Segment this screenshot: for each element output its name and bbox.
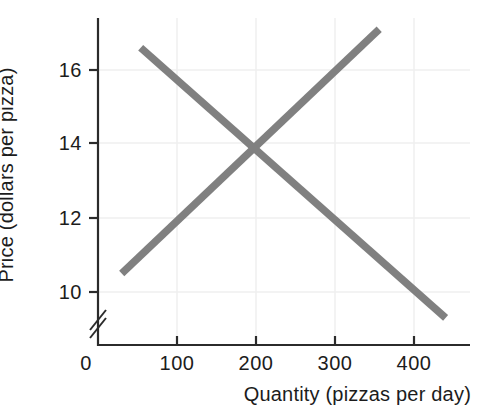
x-axis-title-text: Quantity (pizzas per day) bbox=[244, 383, 471, 405]
demand-curve bbox=[141, 48, 446, 318]
y-tick-label-10: 10 bbox=[54, 281, 82, 304]
origin-label-0: 0 bbox=[80, 352, 92, 375]
gridlines bbox=[98, 18, 470, 345]
y-axis-title-text: Price (dollars per pizza) bbox=[0, 67, 18, 282]
x-axis-ticks bbox=[177, 336, 414, 345]
y-axis-title: Price (dollars per pizza) bbox=[0, 67, 18, 282]
x-tick-label-400: 400 bbox=[397, 352, 432, 375]
supply-demand-chart: 16 14 12 10 0 100 200 300 400 Price (dol… bbox=[0, 0, 483, 412]
x-tick-label-100: 100 bbox=[160, 352, 195, 375]
x-axis-title: Quantity (pizzas per day) bbox=[0, 383, 471, 406]
x-tick-label-200: 200 bbox=[239, 352, 274, 375]
y-tick-label-16: 16 bbox=[54, 59, 82, 82]
y-axis-ticks bbox=[89, 70, 98, 292]
y-tick-label-14: 14 bbox=[54, 132, 82, 155]
y-tick-label-12: 12 bbox=[54, 207, 82, 230]
x-tick-label-300: 300 bbox=[318, 352, 353, 375]
